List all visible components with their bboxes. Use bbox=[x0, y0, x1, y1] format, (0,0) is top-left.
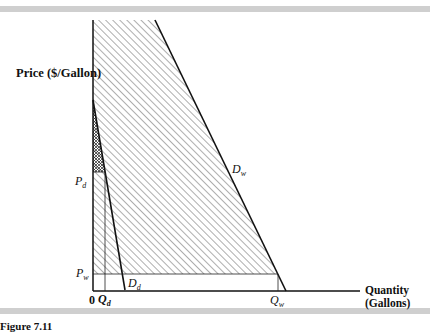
pd-sub: d bbox=[82, 181, 86, 190]
qd-sub: d bbox=[107, 299, 111, 308]
dd-sub: d bbox=[137, 283, 141, 292]
qd-label: Qd bbox=[98, 292, 111, 308]
origin-label: 0 bbox=[89, 293, 95, 308]
dd-main: D bbox=[128, 276, 137, 290]
dw-main: D bbox=[232, 162, 241, 176]
qw-main: Q bbox=[270, 293, 279, 307]
pw-label: Pw bbox=[76, 266, 89, 282]
qd-main: Q bbox=[98, 292, 107, 306]
dw-surplus-region bbox=[93, 20, 278, 274]
y-axis-label: Price ($/Gallon) bbox=[16, 66, 101, 81]
qw-label: Qw bbox=[270, 293, 284, 309]
dd-label: Dd bbox=[128, 276, 141, 292]
pw-sub: w bbox=[83, 273, 88, 282]
dw-sub: w bbox=[241, 169, 246, 178]
dw-label: Dw bbox=[232, 162, 246, 178]
x-axis-label-1: Quantity bbox=[365, 284, 409, 296]
figure-caption: Figure 7.11 bbox=[0, 320, 52, 332]
pd-label: Pd bbox=[75, 174, 86, 190]
x-axis-label-2: (Gallons) bbox=[365, 297, 410, 309]
qw-sub: w bbox=[279, 300, 284, 309]
